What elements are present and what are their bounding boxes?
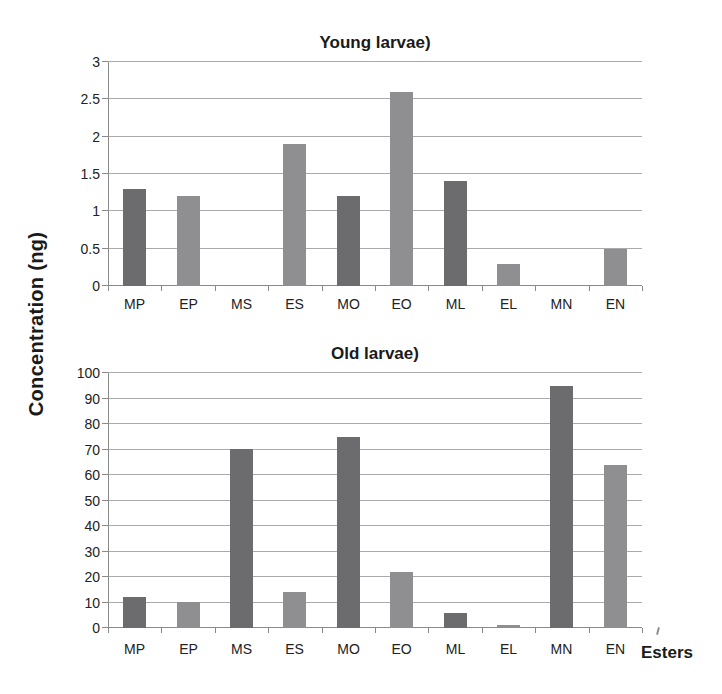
- category-label-ms: MS: [215, 640, 268, 658]
- x-tick-mark: [215, 628, 216, 633]
- y-tick-label: 80: [58, 415, 100, 433]
- figure: Concentration (ng) Young larvae) 00.511.…: [0, 0, 722, 694]
- y-tick-label: 60: [58, 466, 100, 484]
- y-tick-label: 90: [58, 390, 100, 408]
- x-tick-mark: [535, 628, 536, 633]
- y-tick-label: 10: [58, 594, 100, 612]
- y-tick-label: 0: [58, 619, 100, 637]
- category-label-mp: MP: [108, 640, 161, 658]
- gridline: [108, 372, 642, 373]
- x-tick-mark: [642, 628, 643, 633]
- category-label-eo: EO: [375, 640, 428, 658]
- old-larvae-chart: 0102030405060708090100MPEPMSESMOEOMLELMN…: [0, 0, 722, 694]
- x-tick-mark: [428, 628, 429, 633]
- bar-ep: [177, 602, 200, 628]
- y-axis-line: [108, 373, 109, 633]
- bar-ml: [444, 613, 467, 628]
- category-label-ep: EP: [162, 640, 215, 658]
- x-tick-mark: [161, 628, 162, 633]
- y-tick-label: 40: [58, 517, 100, 535]
- bar-mo: [337, 437, 360, 628]
- category-label-en: EN: [589, 640, 642, 658]
- y-tick-label: 100: [58, 364, 100, 382]
- y-tick-label: 20: [58, 568, 100, 586]
- x-tick-mark: [322, 628, 323, 633]
- category-label-mn: MN: [535, 640, 588, 658]
- x-tick-mark: [268, 628, 269, 633]
- x-tick-mark: [375, 628, 376, 633]
- category-label-mo: MO: [322, 640, 375, 658]
- bar-mn: [550, 386, 573, 628]
- y-tick-label: 70: [58, 441, 100, 459]
- bar-ms: [230, 449, 253, 628]
- bar-eo: [390, 572, 413, 628]
- category-label-el: EL: [482, 640, 535, 658]
- bar-es: [283, 592, 306, 628]
- x-tick-mark: [482, 628, 483, 633]
- y-tick-label: 50: [58, 492, 100, 510]
- bar-mp: [123, 597, 146, 628]
- category-label-ml: ML: [429, 640, 482, 658]
- y-tick-label: 30: [58, 543, 100, 561]
- category-label-es: ES: [268, 640, 321, 658]
- bar-el: [497, 625, 520, 628]
- x-axis-label: Esters: [641, 643, 693, 663]
- x-tick-mark: [589, 628, 590, 633]
- x-tick-mark: [108, 628, 109, 633]
- bar-en: [604, 465, 627, 628]
